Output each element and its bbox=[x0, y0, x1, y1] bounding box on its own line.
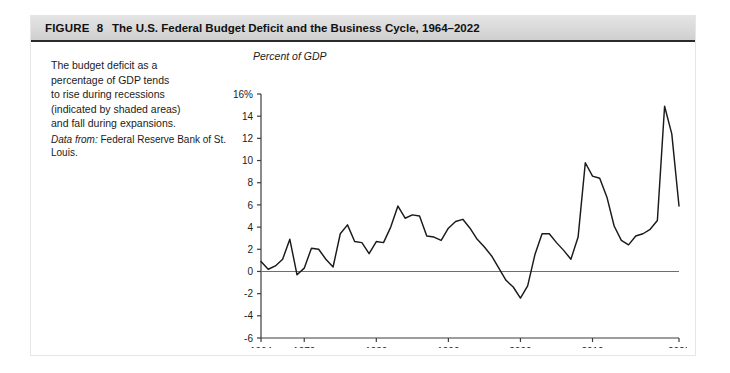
y-axis-tick-label: 10 bbox=[242, 155, 254, 166]
caption-line: The budget deficit as a bbox=[51, 58, 231, 73]
figure-screenshot: FIGURE 8 The U.S. Federal Budget Deficit… bbox=[0, 0, 730, 373]
deficit-series-line bbox=[261, 106, 679, 298]
y-axis-tick-label: 14 bbox=[242, 111, 254, 122]
y-axis-tick-label: 8 bbox=[247, 177, 253, 188]
figure-label: FIGURE bbox=[45, 22, 90, 34]
x-axis-tick-label: 1964 bbox=[250, 346, 273, 348]
y-axis-tick-label: 12 bbox=[242, 133, 254, 144]
chart-plot-area: Percent of GDP 16%14121086420-2-4-619641… bbox=[217, 48, 687, 348]
figure-header-band: FIGURE 8 The U.S. Federal Budget Deficit… bbox=[31, 16, 695, 42]
y-axis-tick-label: 6 bbox=[247, 200, 253, 211]
y-axis-tick-label: -4 bbox=[244, 310, 253, 321]
figure-title: The U.S. Federal Budget Deficit and the … bbox=[112, 22, 480, 34]
source-label: Data from: bbox=[51, 134, 98, 145]
caption-line: (indicated by shaded areas) bbox=[51, 102, 231, 117]
y-axis-tick-label: 2 bbox=[247, 244, 253, 255]
x-axis-tick-label: 1990 bbox=[437, 346, 460, 348]
y-axis-tick-label: 16% bbox=[233, 89, 253, 100]
caption-line: and fall during expansions. bbox=[51, 116, 231, 131]
figure-caption: The budget deficit as a percentage of GD… bbox=[51, 58, 231, 160]
x-axis-tick-label: 2010 bbox=[581, 346, 604, 348]
y-axis-tick-label: 0 bbox=[247, 266, 253, 277]
y-axis-tick-label: -6 bbox=[244, 333, 253, 344]
figure-header-text: FIGURE 8 The U.S. Federal Budget Deficit… bbox=[45, 16, 480, 40]
figure-number: 8 bbox=[97, 22, 103, 34]
y-axis-tick-label: 4 bbox=[247, 222, 253, 233]
x-axis-tick-label: 1970 bbox=[293, 346, 316, 348]
caption-line: to rise during recessions bbox=[51, 87, 231, 102]
y-axis-tick-label: -2 bbox=[244, 288, 253, 299]
caption-line: percentage of GDP tends bbox=[51, 73, 231, 88]
figure-card: FIGURE 8 The U.S. Federal Budget Deficit… bbox=[31, 16, 695, 355]
caption-source: Data from: Federal Reserve Bank of St. L… bbox=[51, 133, 231, 160]
x-axis-tick-label: 1980 bbox=[365, 346, 388, 348]
x-axis-tick-label: 2000 bbox=[509, 346, 532, 348]
x-axis-tick-label: 2022 bbox=[668, 346, 687, 348]
budget-deficit-line-chart: 16%14121086420-2-4-619641970198019902000… bbox=[217, 48, 687, 348]
